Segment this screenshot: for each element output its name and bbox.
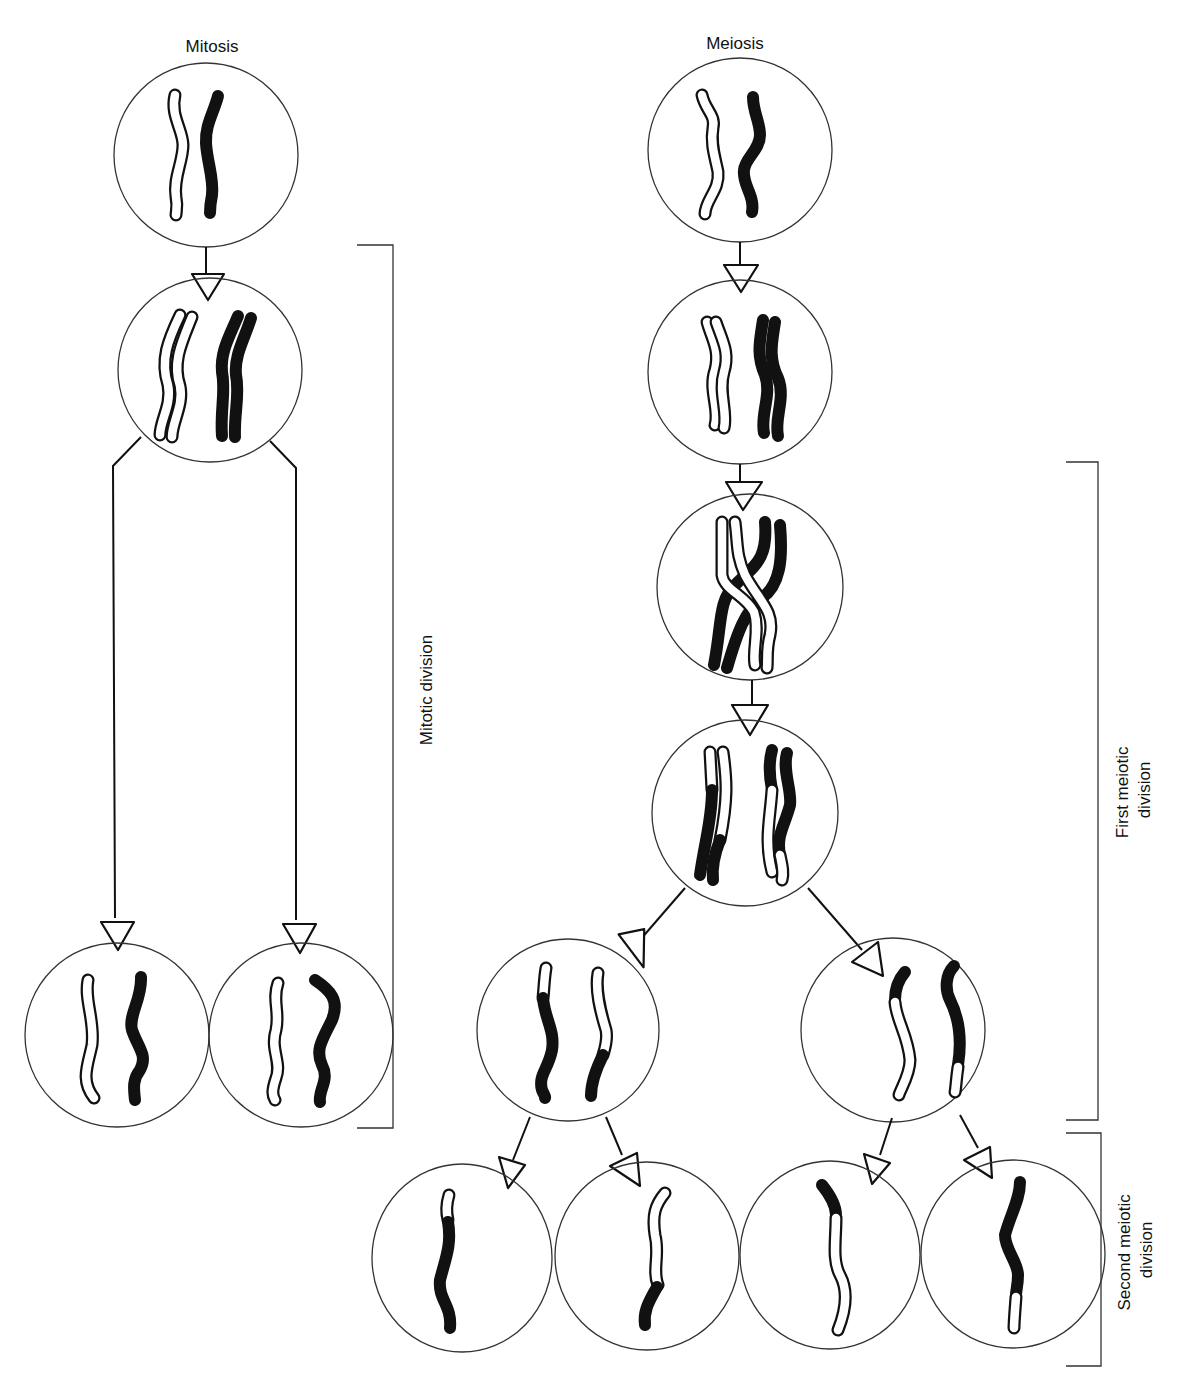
arrow-head-icon: [101, 922, 134, 950]
split-line-right: [270, 441, 296, 920]
arrow-head-icon: [852, 942, 883, 976]
gamete-cell-2: [555, 1162, 739, 1350]
arrow-line: [606, 1117, 622, 1155]
arrow-head-icon: [618, 929, 647, 969]
meiosis-replicated-cell: [648, 280, 832, 464]
gamete-cell-3: [740, 1161, 920, 1349]
mitotic-division-label: Mitotic division: [417, 635, 436, 746]
mitosis-meiosis-diagram: Mitosis Meiosis: [0, 0, 1185, 1391]
arrow-head-icon: [610, 1153, 640, 1186]
arrow-head-icon: [864, 1154, 890, 1184]
mitosis-parent-cell: [114, 63, 298, 247]
arrow-head-icon: [724, 265, 758, 292]
second-meiotic-label-line1: Second meiotic: [1115, 1194, 1134, 1311]
gamete-cell-1: [372, 1164, 552, 1352]
meiosis-recombinant-cell: [652, 720, 838, 906]
arrow-line: [880, 1118, 892, 1155]
mitosis-daughter-cell-1: [25, 943, 209, 1127]
mitosis-panel: Mitotic division: [25, 63, 436, 1128]
arrow-line: [640, 888, 685, 940]
first-meiotic-division-bracket: [1066, 462, 1098, 1120]
second-meiotic-label-line2: division: [1137, 1222, 1156, 1279]
second-meiotic-division-label: Second meiotic division: [1115, 1190, 1156, 1311]
meiosis-second-cell-right: [801, 938, 985, 1122]
arrow-head-icon: [283, 924, 316, 953]
first-meiotic-label-line1: First meiotic: [1113, 746, 1132, 838]
arrow-head-icon: [499, 1157, 525, 1188]
meiosis-crossover-cell: [657, 494, 843, 680]
arrow-head-icon: [964, 1147, 992, 1178]
first-meiotic-division-label: First meiotic division: [1113, 742, 1154, 838]
split-line-left: [113, 437, 141, 918]
mitotic-division-bracket: [357, 245, 393, 1128]
arrow-line: [513, 1117, 530, 1160]
meiosis-panel: First meiotic division Second meiotic di…: [372, 58, 1156, 1366]
first-meiotic-label-line2: division: [1135, 762, 1154, 819]
gamete-cell-4: [921, 1160, 1105, 1348]
meiosis-parent-cell: [648, 58, 832, 242]
arrow-line: [960, 1115, 978, 1148]
arrow-line: [808, 888, 862, 950]
mitosis-title: Mitosis: [186, 37, 239, 56]
second-meiotic-division-bracket: [1066, 1133, 1101, 1366]
meiosis-title: Meiosis: [706, 34, 764, 53]
mitosis-replicated-cell: [118, 278, 302, 462]
mitosis-daughter-cell-2: [209, 943, 393, 1127]
meiosis-second-cell-left: [477, 939, 659, 1121]
